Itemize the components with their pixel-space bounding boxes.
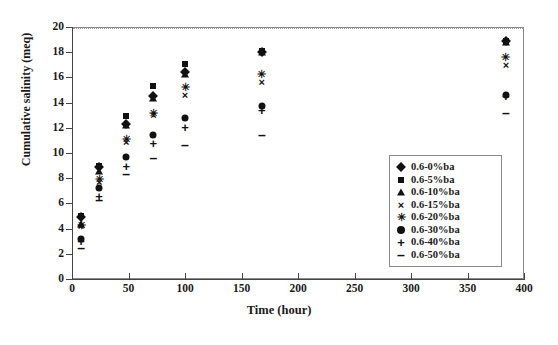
y-tick-label: 14 (38, 97, 64, 109)
gridline-20 (73, 28, 523, 29)
legend-label: 0.6-40%ba (411, 236, 460, 247)
x-tick (468, 273, 469, 279)
legend-item-0-6-20-ba: ✳0.6-20%ba (394, 211, 497, 223)
y-tick (66, 103, 72, 104)
x-tick (411, 273, 412, 279)
y-tick (66, 178, 72, 179)
y-tick-label: 2 (38, 248, 64, 260)
x-tick (72, 273, 73, 279)
y-tick (66, 27, 72, 28)
y-tick (66, 254, 72, 255)
legend-label: 0.6-5%ba (411, 174, 454, 185)
legend-label: 0.6-0%ba (411, 161, 454, 172)
legend-item-0-6-15-ba: ×0.6-15%ba (394, 199, 497, 211)
y-tick-label: 10 (38, 147, 64, 159)
x-tick (355, 273, 356, 279)
cross-marker-icon: × (394, 199, 408, 210)
x-tick-label: 50 (109, 283, 149, 295)
legend-label: 0.6-30%ba (411, 224, 460, 235)
y-tick-label: 12 (38, 122, 64, 134)
legend-item-0-6-40-ba: +0.6-40%ba (394, 236, 497, 248)
y-tick-label: 16 (38, 71, 64, 83)
x-axis-line (72, 279, 525, 280)
x-tick (524, 273, 525, 279)
y-tick (66, 128, 72, 129)
star-marker-icon: ✳ (394, 211, 408, 222)
y-tick (66, 77, 72, 78)
y-tick (66, 229, 72, 230)
x-tick-label: 400 (504, 283, 544, 295)
x-tick (242, 273, 243, 279)
y-tick-label: 6 (38, 197, 64, 209)
y-axis-title: Cumulative salinity (meq) (19, 0, 34, 210)
legend-item-0-6-10-ba: 0.6-10%ba (394, 186, 497, 198)
plus-marker-icon: + (394, 236, 408, 247)
legend-item-0-6-0-ba: 0.6-0%ba (394, 161, 497, 173)
legend-label: 0.6-50%ba (411, 249, 460, 260)
x-tick-label: 0 (52, 283, 92, 295)
x-tick-label: 300 (391, 283, 431, 295)
chart-figure: 02468101214161820 0501001502002503003504… (0, 0, 558, 345)
x-axis-title: Time (hour) (0, 303, 558, 318)
legend-label: 0.6-10%ba (411, 186, 460, 197)
dash-marker-icon: – (394, 249, 408, 260)
y-tick-label: 20 (38, 21, 64, 33)
legend: 0.6-0%ba0.6-5%ba0.6-10%ba×0.6-15%ba✳0.6-… (389, 155, 502, 267)
x-tick-label: 100 (165, 283, 205, 295)
y-axis-line (72, 27, 73, 280)
diamond-marker-icon (394, 161, 408, 172)
x-tick-label: 200 (278, 283, 318, 295)
circle-marker-icon (394, 224, 408, 235)
x-tick (298, 273, 299, 279)
legend-item-0-6-50-ba: –0.6-50%ba (394, 249, 497, 261)
legend-label: 0.6-20%ba (411, 211, 460, 222)
triangle-marker-icon (394, 186, 408, 197)
legend-item-0-6-5-ba: 0.6-5%ba (394, 174, 497, 186)
y-tick (66, 52, 72, 53)
x-tick-label: 150 (222, 283, 262, 295)
legend-label: 0.6-15%ba (411, 199, 460, 210)
y-tick-label: 8 (38, 172, 64, 184)
y-tick (66, 279, 72, 280)
x-tick (185, 273, 186, 279)
x-tick-label: 350 (448, 283, 488, 295)
y-tick-label: 18 (38, 46, 64, 58)
y-tick (66, 153, 72, 154)
legend-item-0-6-30-ba: 0.6-30%ba (394, 224, 497, 236)
y-tick (66, 203, 72, 204)
x-tick (129, 273, 130, 279)
x-tick-label: 250 (335, 283, 375, 295)
square-marker-icon (394, 174, 408, 185)
y-tick-label: 4 (38, 223, 64, 235)
